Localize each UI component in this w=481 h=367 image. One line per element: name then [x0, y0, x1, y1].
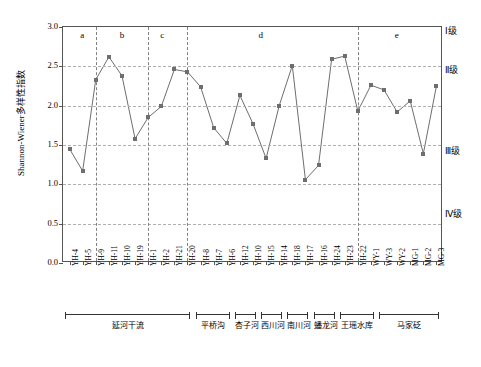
x-tick-label: YH-17 [307, 245, 315, 266]
data-point [251, 122, 255, 126]
group-label: 南川河 [287, 319, 308, 330]
x-tick-label: YH-24 [334, 245, 342, 266]
data-point [277, 104, 281, 108]
y-tick-mark [59, 145, 63, 146]
x-tick-label: YH-20 [189, 245, 197, 266]
data-point [146, 115, 150, 119]
x-tick-label: YH-5 [85, 249, 93, 266]
y-tick-mark [59, 184, 63, 185]
data-point [94, 78, 98, 82]
data-point [290, 64, 294, 68]
x-tick-label: YH-15 [268, 245, 276, 266]
x-tick-label: YH-10 [124, 245, 132, 266]
x-tick-label: YH-19 [137, 245, 145, 266]
y-tick-mark [59, 224, 63, 225]
data-point [68, 147, 72, 151]
data-point [421, 152, 425, 156]
data-point [225, 141, 229, 145]
data-point [303, 178, 307, 182]
group-label: 杏子河 [235, 319, 256, 330]
data-point [434, 84, 438, 88]
group-range-bar [261, 314, 282, 315]
water-class-label: Ⅳ级 [445, 207, 462, 220]
y-gridline [63, 224, 441, 225]
x-tick-label: YH-8 [203, 249, 211, 266]
data-point [317, 163, 321, 167]
x-tick-label: YH-4 [72, 249, 80, 266]
data-point [172, 67, 176, 71]
water-class-label: Ⅱ级 [445, 63, 458, 76]
group-label: 延河干流 [65, 319, 191, 330]
data-point [212, 126, 216, 130]
data-point [133, 137, 137, 141]
group-label: 平桥沟 [196, 319, 230, 330]
x-tick-label: YH-1 [150, 249, 158, 266]
y-gridline [63, 145, 441, 146]
section-divider [96, 27, 97, 261]
x-tick-label: YH-14 [281, 245, 289, 266]
group-range-bar [196, 314, 230, 315]
section-label: e [395, 30, 399, 40]
x-tick-label: YH-22 [360, 245, 368, 266]
water-class-label: Ⅲ级 [445, 144, 460, 157]
group-range-bar [340, 314, 374, 315]
y-gridline [63, 106, 441, 107]
data-point [159, 104, 163, 108]
section-label: d [259, 30, 264, 40]
x-tick-label: WY-2 [399, 248, 407, 266]
data-point [343, 54, 347, 58]
y-gridline [63, 184, 441, 185]
data-point [395, 110, 399, 114]
y-tick-label: 2.5 [36, 61, 58, 69]
y-tick-mark [59, 106, 63, 107]
y-axis-title: Shannon-Wiener多样性指数 [14, 70, 27, 176]
x-tick-label: YH-16 [321, 245, 329, 266]
data-point [369, 83, 373, 87]
data-point [356, 109, 360, 113]
x-tick-label: YH-7 [216, 249, 224, 266]
x-tick-label: YH-12 [242, 245, 250, 266]
x-tick-label: YH-2 [163, 249, 171, 266]
data-point [264, 156, 268, 160]
x-tick-label: YH-9 [98, 249, 106, 266]
data-point [81, 169, 85, 173]
x-tick-label: YH-18 [294, 245, 302, 266]
group-label: 马家砭 [379, 319, 439, 330]
section-label: a [80, 30, 84, 40]
y-tick-mark [59, 66, 63, 67]
group-label: 蟠龙河 [314, 319, 335, 330]
data-point [330, 57, 334, 61]
group-range-bar [287, 314, 308, 315]
group-label: 王瑶水库 [340, 319, 374, 330]
y-tick-mark [59, 27, 63, 28]
group-range-bar [65, 314, 191, 315]
section-divider [148, 27, 149, 261]
section-label: b [120, 30, 125, 40]
y-tick-mark [59, 263, 63, 264]
data-point [382, 88, 386, 92]
x-tick-label: YH-11 [111, 245, 119, 266]
y-tick-label: 0.5 [36, 219, 58, 227]
group-range-bar [235, 314, 256, 315]
chart-root: Shannon-Wiener多样性指数 0.00.51.01.52.02.53.… [0, 0, 481, 367]
data-point [408, 99, 412, 103]
data-point [199, 85, 203, 89]
plot-area [62, 26, 442, 262]
data-point [238, 93, 242, 97]
section-divider [187, 27, 188, 261]
x-tick-label: MG-2 [425, 248, 433, 266]
y-tick-label: 1.5 [36, 140, 58, 148]
y-tick-label: 0.0 [36, 258, 58, 266]
x-tick-label: MG-1 [412, 248, 420, 266]
x-tick-label: MG-3 [438, 248, 446, 266]
section-divider [358, 27, 359, 261]
y-tick-label: 1.0 [36, 179, 58, 187]
data-point [185, 70, 189, 74]
water-class-label: Ⅰ级 [445, 24, 457, 37]
group-range-bar [379, 314, 439, 315]
x-tick-label: YH-6 [229, 249, 237, 266]
x-tick-label: WY-1 [373, 248, 381, 266]
data-point [120, 74, 124, 78]
x-tick-label: WY-3 [386, 248, 394, 266]
x-tick-label: YH-23 [347, 245, 355, 266]
